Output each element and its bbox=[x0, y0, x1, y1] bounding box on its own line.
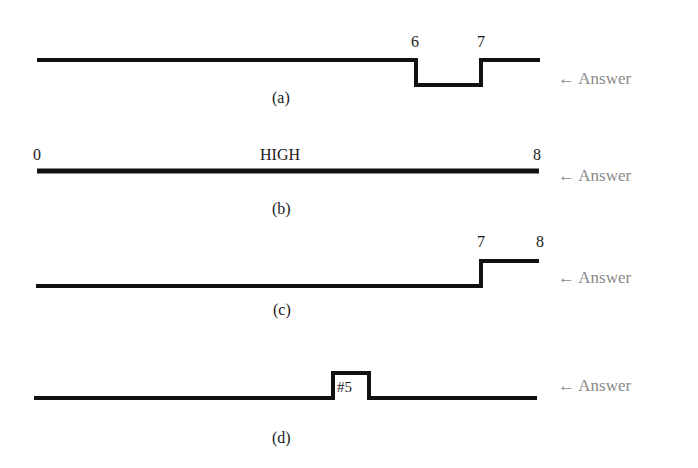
waveform-c bbox=[36, 261, 539, 286]
label-b-8: 8 bbox=[533, 147, 541, 163]
label-b-0: 0 bbox=[33, 147, 41, 163]
answer-b: ← Answer bbox=[558, 167, 631, 184]
arrow-left-icon: ← bbox=[558, 268, 575, 287]
arrow-left-icon: ← bbox=[558, 376, 575, 395]
caption-b: (b) bbox=[272, 201, 291, 217]
arrow-left-icon: ← bbox=[558, 166, 575, 185]
caption-d: (d) bbox=[272, 430, 291, 446]
label-d-5: #5 bbox=[337, 380, 352, 395]
arrow-left-icon: ← bbox=[558, 69, 575, 88]
answer-a: ← Answer bbox=[558, 70, 631, 87]
label-b-high: HIGH bbox=[260, 147, 300, 163]
answer-d: ← Answer bbox=[558, 377, 631, 394]
waveform-d bbox=[34, 373, 537, 398]
label-c-8: 8 bbox=[536, 234, 544, 250]
caption-a: (a) bbox=[272, 90, 290, 106]
label-a-7: 7 bbox=[477, 34, 485, 50]
answer-c: ← Answer bbox=[558, 269, 631, 286]
caption-c: (c) bbox=[273, 302, 291, 318]
label-c-7: 7 bbox=[477, 234, 485, 250]
label-a-6: 6 bbox=[411, 34, 419, 50]
waveform-a bbox=[37, 60, 540, 85]
